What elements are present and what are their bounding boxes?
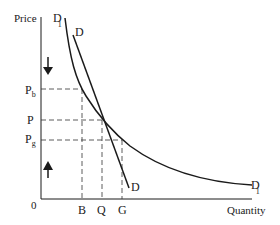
down-arrow-icon bbox=[43, 57, 53, 75]
curve-label-d-bottom: D bbox=[131, 180, 140, 194]
curve-label-d1-top: D1 bbox=[53, 11, 62, 29]
curve-label-d1-bottom: D1 bbox=[251, 178, 260, 196]
origin-label: 0 bbox=[31, 199, 37, 211]
guide-lines bbox=[41, 89, 122, 199]
x-axis-label: Quantity bbox=[227, 204, 266, 216]
demand-curve-d1 bbox=[65, 18, 252, 185]
quantity-label-g: G bbox=[118, 203, 127, 217]
price-label-p: P bbox=[27, 113, 34, 127]
demand-line-d bbox=[73, 35, 129, 188]
y-axis-label: Price bbox=[14, 12, 37, 24]
price-label-pg: Pg bbox=[25, 132, 36, 148]
quantity-label-b: B bbox=[78, 203, 86, 217]
up-arrow-icon bbox=[43, 161, 53, 178]
price-label-pb: Pb bbox=[25, 83, 36, 99]
demand-diagram: Price Quantity 0 Pb P Pg B Q G D1 D D D1 bbox=[0, 0, 280, 225]
curve-label-d-top: D bbox=[75, 25, 84, 39]
quantity-label-q: Q bbox=[97, 203, 106, 217]
